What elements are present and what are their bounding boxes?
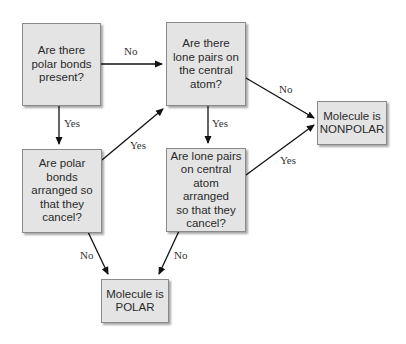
node-label: Are polar bonds arranged so that they ca…	[31, 157, 92, 225]
node-polar-bonds-present: Are there polar bonds present?	[22, 23, 101, 106]
node-label: Are there lone pairs on the central atom…	[173, 37, 239, 91]
edge-label-no: No	[174, 249, 187, 261]
edge-label-yes: Yes	[280, 154, 296, 166]
node-molecule-polar: Molecule is POLAR	[101, 279, 169, 323]
node-molecule-nonpolar: Molecule is NONPOLAR	[317, 101, 387, 145]
node-label: Molecule is POLAR	[106, 288, 164, 315]
node-label: Are lone pairs on central atom arranged …	[169, 150, 243, 231]
node-polar-bonds-cancel: Are polar bonds arranged so that they ca…	[22, 149, 102, 233]
edge-label-yes: Yes	[64, 117, 80, 129]
edge-label-yes: Yes	[212, 117, 228, 129]
node-lone-pairs-central-atom: Are there lone pairs on the central atom…	[166, 22, 246, 106]
node-label: Molecule is NONPOLAR	[320, 110, 385, 137]
edge-label-no: No	[279, 83, 292, 95]
edge-label-yes: Yes	[130, 139, 146, 151]
edge-label-no: No	[124, 45, 137, 57]
node-label: Are there polar bonds present?	[31, 44, 91, 85]
edge-label-no: No	[80, 249, 93, 261]
node-lone-pairs-cancel: Are lone pairs on central atom arranged …	[166, 148, 246, 232]
